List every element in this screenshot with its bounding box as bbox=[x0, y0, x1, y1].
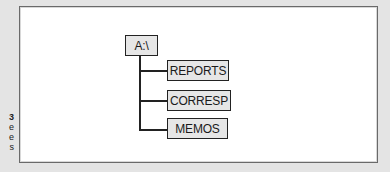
tree-trunk-connector bbox=[139, 56, 141, 130]
branch-connector-reports bbox=[139, 70, 167, 72]
folder-node-corresp: CORRESP bbox=[167, 90, 231, 111]
caption-line: e bbox=[0, 122, 14, 132]
folder-node-label: MEMOS bbox=[175, 122, 219, 136]
figure-caption-fragment: 3 e e s bbox=[0, 112, 14, 152]
branch-connector-corresp bbox=[139, 100, 167, 102]
branch-connector-memos bbox=[139, 129, 167, 131]
root-node-a-drive: A:\ bbox=[125, 35, 158, 56]
caption-line: s bbox=[0, 142, 14, 152]
folder-node-memos: MEMOS bbox=[167, 118, 228, 139]
root-node-label: A:\ bbox=[134, 39, 148, 53]
caption-line: e bbox=[0, 132, 14, 142]
folder-node-reports: REPORTS bbox=[167, 60, 229, 81]
caption-line: 3 bbox=[0, 112, 14, 122]
diagram-frame bbox=[19, 6, 378, 163]
folder-node-label: CORRESP bbox=[170, 94, 228, 108]
folder-node-label: REPORTS bbox=[170, 64, 226, 78]
